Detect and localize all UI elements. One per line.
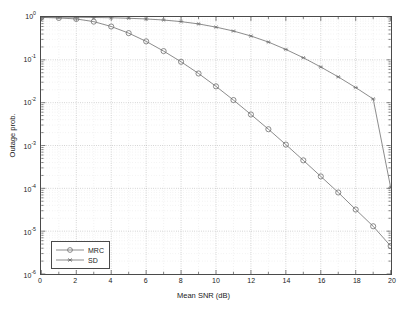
x-tick-label: 2 — [73, 277, 77, 284]
x-tick-label: 0 — [38, 277, 42, 284]
x-tick-label: 12 — [247, 277, 255, 284]
y-axis-title: Outage prob. — [8, 96, 17, 176]
y-axis-tick-labels: 10010-110-210-310-410-510-6 — [0, 16, 36, 275]
legend-item-mrc[interactable]: MRC — [55, 245, 104, 255]
legend-label-sd: SD — [85, 257, 98, 264]
x-tick-label: 6 — [144, 277, 148, 284]
y-tick-label: 100 — [25, 13, 36, 20]
y-tick-label: 10-1 — [24, 56, 36, 63]
y-tick-label: 10-3 — [24, 142, 36, 149]
y-tick-label: 10-5 — [24, 228, 36, 235]
x-tick-label: 10 — [212, 277, 220, 284]
x-tick-label: 18 — [353, 277, 361, 284]
x-tick-label: 4 — [108, 277, 112, 284]
y-tick-label: 10-6 — [24, 272, 36, 279]
figure-canvas: 10010-110-210-310-410-510-6 MRC — [0, 0, 407, 310]
curve-layer — [41, 17, 391, 274]
y-tick-label: 10-2 — [24, 99, 36, 106]
x-tick-label: 8 — [179, 277, 183, 284]
x-axis-title: Mean SNR (dB) — [0, 291, 407, 300]
legend-label-mrc: MRC — [85, 247, 104, 254]
x-tick-label: 14 — [282, 277, 290, 284]
legend-box[interactable]: MRC SD — [51, 241, 110, 269]
legend-marker-circle-icon — [55, 245, 85, 255]
legend-marker-asterisk-icon — [55, 255, 85, 265]
y-tick-label: 10-4 — [24, 185, 36, 192]
plot-area: MRC SD — [40, 16, 392, 275]
legend-item-sd[interactable]: SD — [55, 255, 104, 265]
x-tick-label: 20 — [388, 277, 396, 284]
x-axis-tick-labels: 02468101214161820 — [40, 277, 393, 289]
x-tick-label: 16 — [318, 277, 326, 284]
